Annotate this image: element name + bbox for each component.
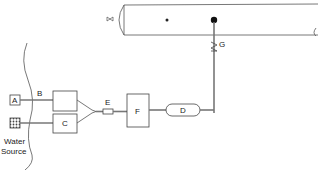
tank-small-port <box>166 19 169 22</box>
label-c: C <box>62 119 68 128</box>
label-d: D <box>180 106 186 115</box>
valve-g-icon <box>211 42 217 51</box>
label-f: F <box>135 107 140 116</box>
label-g: G <box>219 40 225 49</box>
tank-top-edge <box>124 4 318 5</box>
label-b: B <box>37 89 42 98</box>
tank-left-end-cap <box>119 5 124 35</box>
water-source-label-line2: Source <box>1 147 27 156</box>
wye-fitting-icon <box>92 110 96 113</box>
schematic-diagram: G A B C E F D Water Source <box>0 0 318 170</box>
merge-pipe-lower <box>77 113 92 123</box>
merge-pipe-upper <box>77 100 92 110</box>
storage-tank <box>107 4 318 36</box>
upper-treatment-box <box>53 91 77 111</box>
label-a: A <box>12 96 18 105</box>
component-e <box>103 109 113 114</box>
tank-vent-valve-icon <box>107 17 113 21</box>
label-e: E <box>105 98 110 107</box>
water-source-label-line1: Water <box>4 137 25 146</box>
hatched-intake-icon <box>10 118 20 128</box>
